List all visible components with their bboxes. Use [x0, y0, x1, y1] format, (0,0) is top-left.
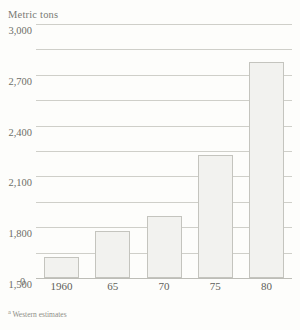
- x-axis-tick-label: 65: [87, 280, 138, 293]
- x-axis-tick-label: 80: [241, 280, 292, 293]
- y-axis-tick-label: 3,000: [8, 25, 32, 36]
- bar-group: [36, 24, 292, 278]
- bar-chart: Metric tons 3,0002,7002,4002,1001,8001,5…: [0, 0, 300, 330]
- x-axis-tick-label: 70: [138, 280, 189, 293]
- y-axis-tick-label: 2,400: [8, 127, 32, 138]
- y-axis-tick-label: 2,100: [8, 177, 32, 188]
- gridline: [36, 278, 292, 279]
- bar-1960: [44, 257, 79, 278]
- chart-footnote: aWestern estimates: [8, 310, 67, 320]
- y-axis-zero-label: 0: [20, 276, 25, 287]
- bar-70: [147, 216, 182, 278]
- footnote-marker: a: [8, 308, 11, 315]
- x-axis-tick-label: 1960: [36, 280, 87, 293]
- bar-80: [249, 62, 284, 278]
- bar-65: [95, 231, 130, 278]
- plot-area: 3,0002,7002,4002,1001,8001,5001,20090060…: [36, 24, 292, 278]
- bar-75: [198, 155, 233, 278]
- y-axis-tick-label: 2,700: [8, 76, 32, 87]
- x-axis-tick-labels: 196065707580: [36, 280, 292, 296]
- x-axis-tick-label: 75: [190, 280, 241, 293]
- y-axis-tick-label: 1,800: [8, 228, 32, 239]
- y-axis-title: Metric tons: [8, 9, 58, 20]
- footnote-text: Western estimates: [12, 310, 66, 319]
